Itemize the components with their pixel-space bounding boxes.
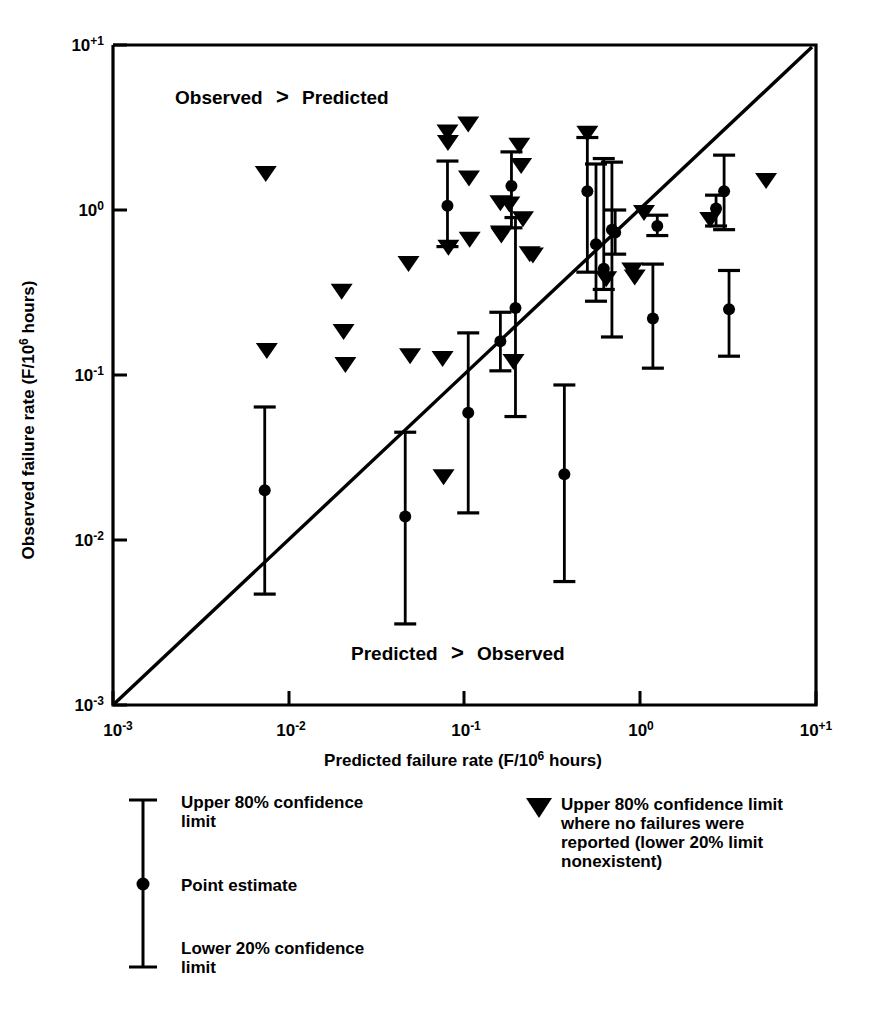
annot-ul-gt: > — [276, 84, 289, 109]
data-point-errorbar — [254, 407, 276, 594]
upper-limit-triangle-marker — [334, 357, 356, 373]
point-estimate-marker — [651, 220, 663, 232]
data-point-errorbar — [718, 270, 740, 356]
x-axis-tick-labels: 10-3 10-2 10-1 100 10+1 — [103, 719, 832, 740]
x-tick-base-1: 10 — [276, 721, 295, 740]
upper-limit-triangle-marker — [433, 469, 455, 485]
legend-right-line2: where no failures were — [560, 814, 744, 833]
svg-text:10-3: 10-3 — [103, 719, 133, 740]
upper-limit-triangle-marker — [333, 324, 355, 340]
svg-text:10-3: 10-3 — [74, 694, 104, 715]
x-tick-exp-2: -1 — [470, 719, 481, 733]
svg-text:10-1: 10-1 — [451, 719, 481, 740]
x-tick-base-2: 10 — [451, 721, 470, 740]
y-tick-exp-4: +1 — [90, 34, 104, 48]
upper-limit-triangle-marker — [490, 228, 512, 244]
x-axis-ticks — [113, 691, 816, 705]
svg-text:10+1: 10+1 — [71, 34, 104, 55]
point-estimate-marker — [590, 238, 602, 250]
legend-point-estimate-dot — [137, 878, 150, 891]
upper-limit-triangle-marker — [459, 232, 481, 248]
point-estimate-marker — [509, 302, 521, 314]
upper-limit-triangle-marker — [755, 173, 777, 189]
y-axis-title: Observed failure rate (F/106 hours) — [17, 281, 38, 560]
svg-text:10-2: 10-2 — [74, 529, 104, 550]
svg-text:Predicted failure rate (F/106: Predicted failure rate (F/106 hours) — [324, 749, 602, 770]
y-tick-exp-1: -2 — [93, 529, 104, 543]
y-tick-base-0: 10 — [74, 696, 93, 715]
annotation-observed-gt-predicted: Observed > Predicted — [175, 84, 389, 109]
svg-text:Observed > Pre: Observed > Predicted — [175, 84, 389, 109]
upper-limit-triangle-marker — [399, 348, 421, 364]
svg-text:10+1: 10+1 — [800, 719, 833, 740]
x-tick-base-0: 10 — [103, 721, 122, 740]
y-tick-base-4: 10 — [71, 36, 90, 55]
y-axis-title-tail: hours) — [19, 281, 38, 339]
upper-limit-triangle-marker — [624, 269, 646, 285]
x-axis-title-main: Predicted failure rate (F/10 — [324, 751, 538, 770]
annot-ul-post: Predicted — [302, 87, 389, 108]
point-estimate-marker — [581, 185, 593, 197]
y-axis-title-main: Observed failure rate (F/10 — [19, 345, 38, 559]
upper-limit-triangle-marker — [595, 271, 617, 287]
annot-lr-pre: Predicted — [351, 643, 438, 664]
legend-lower-line2: limit — [181, 958, 216, 977]
y-axis-tick-labels: 10+1 100 10-1 10-2 10-3 — [71, 34, 104, 715]
upper-limit-triangle-marker — [256, 343, 278, 359]
annot-ul-pre: Observed — [175, 87, 263, 108]
upper-limit-triangle-marker — [502, 354, 524, 370]
upper-limit-triangle-marker — [457, 116, 479, 132]
point-estimate-marker — [259, 484, 271, 496]
point-estimate-marker — [505, 180, 517, 192]
point-estimate-marker — [441, 200, 453, 212]
y-tick-exp-3: 0 — [97, 199, 104, 213]
annot-lr-post: Observed — [477, 643, 565, 664]
y-tick-base-3: 10 — [78, 201, 97, 220]
x-axis-title: Predicted failure rate (F/106 hours) — [324, 749, 602, 770]
y-axis-ticks — [113, 45, 127, 705]
y-tick-exp-2: -1 — [93, 364, 104, 378]
data-point-errorbar — [642, 264, 664, 368]
svg-text:10-2: 10-2 — [276, 719, 306, 740]
point-estimate-marker — [609, 227, 621, 239]
legend-left-text: Upper 80% confidence limit Point estimat… — [181, 793, 364, 977]
legend-point-estimate-label: Point estimate — [181, 876, 297, 895]
point-estimate-marker — [723, 303, 735, 315]
point-estimate-marker — [462, 407, 474, 419]
upper-limit-triangle-marker — [432, 351, 454, 367]
svg-text:Observed failure rate (F/106 h: Observed failure rate (F/106 hours) — [17, 281, 38, 560]
annotation-predicted-gt-observed: Predicted > Observed — [351, 640, 565, 665]
x-tick-base-4: 10 — [800, 721, 819, 740]
data-point-errorbar — [394, 432, 416, 624]
y-tick-base-1: 10 — [74, 531, 93, 550]
x-tick-exp-0: -3 — [122, 719, 133, 733]
x-tick-exp-1: -2 — [295, 719, 306, 733]
svg-text:10-1: 10-1 — [74, 364, 104, 385]
y-tick-exp-0: -3 — [93, 694, 104, 708]
upper-limit-triangle-marker — [576, 126, 598, 142]
errorbar-series-layer — [254, 138, 740, 624]
data-point-errorbar — [646, 215, 668, 235]
svg-text:Predicted > Ob: Predicted > Observed — [351, 640, 565, 665]
upper-limit-triangle-marker — [255, 166, 277, 182]
legend-upper-line1: Upper 80% confidence — [181, 793, 363, 812]
svg-text:100: 100 — [78, 199, 104, 220]
upper-limit-triangle-marker — [331, 284, 353, 300]
upper-limit-triangle-marker — [458, 171, 480, 187]
x-tick-base-3: 10 — [628, 721, 647, 740]
y-tick-base-2: 10 — [74, 366, 93, 385]
svg-text:100: 100 — [628, 719, 654, 740]
point-estimate-marker — [558, 468, 570, 480]
legend-right-line3: reported (lower 20% limit — [561, 833, 763, 852]
point-estimate-marker — [647, 313, 659, 325]
figure-scatter-plot: Observed failure rate (F/106 hours) Pred… — [0, 0, 876, 1011]
legend-right-line1: Upper 80% confidence limit — [561, 795, 783, 814]
point-estimate-marker — [718, 185, 730, 197]
legend-triangle-symbol — [526, 798, 552, 818]
parity-reference-line — [113, 47, 812, 705]
legend-right-text: Upper 80% confidence limit where no fail… — [560, 795, 783, 871]
upper-limit-triangle-marker — [397, 256, 419, 272]
legend-right-line4: nonexistent) — [561, 852, 662, 871]
legend-upper-line2: limit — [181, 812, 216, 831]
upper-limit-triangle-marker — [510, 158, 532, 174]
